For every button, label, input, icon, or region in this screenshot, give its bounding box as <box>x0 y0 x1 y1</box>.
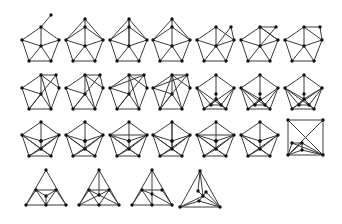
graph-vertex <box>115 107 118 110</box>
graph-vertex <box>188 133 191 136</box>
graph-vertex <box>268 154 271 157</box>
graph-edge <box>153 135 172 141</box>
graph-edge <box>260 135 278 141</box>
graph-edge <box>216 46 226 61</box>
graph-edge <box>172 94 182 109</box>
graph-edge <box>241 135 260 141</box>
graph-vertex <box>137 107 140 110</box>
graph-vertex <box>150 168 153 171</box>
graph-vertex <box>214 139 217 142</box>
graph-edge <box>22 75 41 88</box>
graph-vertex <box>224 107 227 110</box>
graph-vertex <box>44 194 47 197</box>
graph-edge <box>304 75 322 88</box>
graph-vertex <box>232 38 235 41</box>
graph-edge <box>129 40 147 46</box>
graph-vertex <box>93 59 96 62</box>
graph-edge <box>197 135 216 141</box>
graph-g15 <box>20 120 60 157</box>
graph-edge <box>260 149 270 156</box>
graph-vertex <box>318 25 321 28</box>
graph-g5 <box>195 25 235 62</box>
graph-vertex <box>180 59 183 62</box>
graph-vertex <box>258 97 261 100</box>
graph-edge <box>160 46 172 61</box>
graph-vertex <box>276 133 279 136</box>
graph-vertex <box>224 154 227 157</box>
graph-vertex <box>108 38 111 41</box>
graph-vertex <box>274 25 277 28</box>
graph-vertex <box>54 188 57 191</box>
graph-edge <box>241 40 260 46</box>
graph-edge <box>66 40 85 46</box>
graph-vertex <box>246 154 249 157</box>
graph-vertex <box>39 139 42 142</box>
graph-edge <box>85 135 103 141</box>
graph-edge <box>160 75 172 109</box>
graph-edge <box>241 27 260 40</box>
graph-vertex <box>302 92 305 95</box>
graph-edge <box>260 122 278 135</box>
graph-g22 <box>24 168 67 206</box>
graph-vertex <box>178 205 181 208</box>
graph-edge <box>41 94 51 109</box>
graph-vertex <box>300 141 303 144</box>
graph-g21 <box>286 118 324 156</box>
graph-g7 <box>283 25 323 62</box>
graph-edge <box>110 40 129 46</box>
graph-edge <box>22 135 41 141</box>
graph-vertex <box>83 92 86 95</box>
graph-edge <box>56 190 66 205</box>
graph-vertex <box>151 133 154 136</box>
graph-vertex <box>151 38 154 41</box>
graph-edge <box>95 88 103 109</box>
graph-edge <box>129 135 147 141</box>
graph-vertex <box>209 103 212 106</box>
graph-g14 <box>283 73 323 110</box>
graph-edge <box>22 88 29 109</box>
graph-vertex <box>64 203 67 206</box>
graph-vertex <box>57 38 60 41</box>
graph-edge <box>41 15 51 27</box>
graph-edge <box>260 46 270 61</box>
graph-vertex <box>39 92 42 95</box>
graph-vertex <box>127 17 130 20</box>
graph-vertex <box>202 154 205 157</box>
graph-vertex <box>214 92 217 95</box>
graph-vertex <box>218 205 221 208</box>
graph-vertex <box>54 73 57 76</box>
graph-vertex <box>253 103 256 106</box>
graph-vertex <box>127 147 130 150</box>
graph-edge <box>73 46 85 61</box>
graph-edge <box>216 122 234 135</box>
graph-edge <box>110 40 117 61</box>
graph-edge <box>314 40 322 61</box>
graph-edge <box>66 122 85 135</box>
graph-vertex <box>202 107 205 110</box>
graph-edge <box>117 149 129 156</box>
graph-edge <box>216 135 234 141</box>
graph-vertex <box>302 44 305 47</box>
graph-vertex <box>170 25 173 28</box>
graph-vertex <box>127 120 130 123</box>
graph-edge <box>285 40 304 46</box>
graph-vertex <box>263 103 266 106</box>
graph-vertex <box>283 86 286 89</box>
graph-edge <box>248 46 260 61</box>
graph-vertex <box>258 44 261 47</box>
graph-edge <box>41 149 51 156</box>
graph-edge <box>129 94 139 109</box>
graph-g4 <box>151 17 191 62</box>
graph-vertex <box>64 38 67 41</box>
graph-vertex <box>137 154 140 157</box>
graph-edge <box>139 88 147 109</box>
graph-vertex <box>219 103 222 106</box>
graph-edge <box>22 88 41 94</box>
graph-edge <box>41 46 51 61</box>
graph-edge <box>260 27 278 40</box>
graph-edge <box>200 171 220 207</box>
graph-vertex <box>180 154 183 157</box>
graph-g8 <box>20 73 60 110</box>
graph-vertex <box>142 73 145 76</box>
graph-vertex <box>188 86 191 89</box>
